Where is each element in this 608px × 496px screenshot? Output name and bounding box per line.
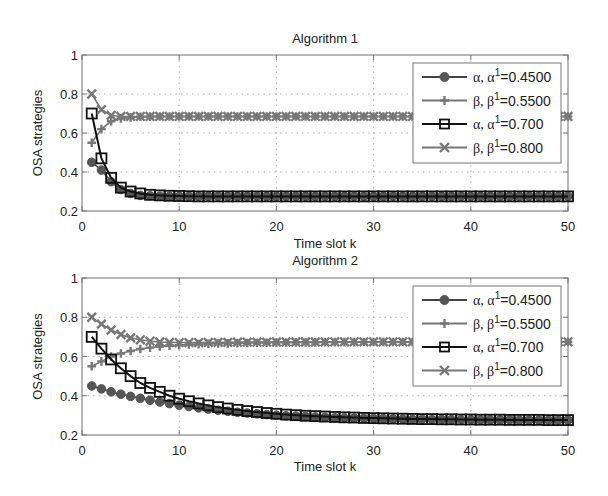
legend-label: α, α1=0.4500 bbox=[473, 290, 551, 308]
figure: Algorithm 1 Time slot k OSA strategies 0… bbox=[0, 0, 608, 496]
data-point-circle bbox=[136, 394, 145, 403]
legend-label: β, β1=0.5500 bbox=[473, 91, 551, 109]
x-tick-label: 30 bbox=[366, 219, 380, 234]
data-point-circle bbox=[97, 166, 106, 175]
y-tick-label: 0.4 bbox=[60, 389, 78, 404]
subplot-algorithm-1: Algorithm 1 Time slot k OSA strategies 0… bbox=[30, 31, 575, 251]
y-axis-label: OSA strategies bbox=[30, 313, 45, 400]
data-point-plus bbox=[87, 362, 96, 371]
x-axis-label: Time slot k bbox=[294, 236, 357, 251]
legend: α, α1=0.4500β, β1=0.5500α, α1=0.700β, β1… bbox=[413, 286, 561, 386]
data-point-circle bbox=[146, 396, 155, 405]
legend: α, α1=0.4500β, β1=0.5500α, α1=0.700β, β1… bbox=[413, 63, 561, 163]
data-point-x bbox=[107, 326, 116, 335]
y-tick-label: 0.2 bbox=[60, 428, 78, 443]
legend-label: β, β1=0.800 bbox=[473, 138, 543, 156]
legend-label: β, β1=0.5500 bbox=[473, 314, 551, 332]
data-point-plus bbox=[136, 345, 145, 354]
data-point-x bbox=[97, 320, 106, 329]
y-tick-label: 0.8 bbox=[60, 310, 78, 325]
y-tick-label: 1 bbox=[71, 271, 78, 286]
x-tick-label: 10 bbox=[172, 443, 186, 458]
legend-label: α, α1=0.4500 bbox=[473, 67, 551, 85]
legend-marker-circle-icon bbox=[440, 296, 449, 305]
data-point-circle bbox=[107, 388, 116, 397]
figure-canvas: Algorithm 1 Time slot k OSA strategies 0… bbox=[0, 0, 608, 496]
legend-label: α, α1=0.700 bbox=[473, 337, 544, 355]
data-point-plus bbox=[117, 349, 126, 358]
x-tick-label: 40 bbox=[464, 219, 478, 234]
y-tick-label: 0.8 bbox=[60, 87, 78, 102]
data-point-plus bbox=[126, 347, 135, 356]
subplot-algorithm-2: Algorithm 2 Time slot k OSA strategies 0… bbox=[30, 253, 575, 474]
data-point-x bbox=[117, 330, 126, 339]
data-point-circle bbox=[87, 158, 96, 167]
y-tick-label: 0.6 bbox=[60, 350, 78, 365]
x-tick-label: 20 bbox=[269, 443, 283, 458]
data-point-circle bbox=[117, 390, 126, 399]
legend-label: β, β1=0.800 bbox=[473, 361, 543, 379]
x-tick-label: 50 bbox=[561, 443, 575, 458]
legend-marker-circle-icon bbox=[440, 73, 449, 82]
y-tick-label: 0.4 bbox=[60, 165, 78, 180]
data-point-plus bbox=[97, 357, 106, 366]
x-axis-label: Time slot k bbox=[294, 459, 357, 474]
x-tick-label: 40 bbox=[464, 443, 478, 458]
x-tick-label: 20 bbox=[269, 219, 283, 234]
data-point-circle bbox=[87, 382, 96, 391]
x-tick-label: 30 bbox=[366, 443, 380, 458]
x-tick-label: 10 bbox=[172, 219, 186, 234]
y-tick-label: 0.6 bbox=[60, 126, 78, 141]
data-point-circle bbox=[175, 401, 184, 410]
data-point-circle bbox=[97, 385, 106, 394]
y-tick-label: 0.2 bbox=[60, 204, 78, 219]
legend-label: α, α1=0.700 bbox=[473, 114, 544, 132]
data-point-circle bbox=[126, 392, 135, 401]
x-tick-label: 0 bbox=[78, 443, 85, 458]
y-tick-label: 1 bbox=[71, 48, 78, 63]
subplot-title: Algorithm 2 bbox=[292, 253, 358, 268]
data-point-circle bbox=[155, 398, 164, 407]
y-axis-label: OSA strategies bbox=[30, 89, 45, 176]
data-point-x bbox=[97, 105, 106, 114]
subplot-title: Algorithm 1 bbox=[292, 31, 358, 46]
x-tick-label: 0 bbox=[78, 219, 85, 234]
x-tick-label: 50 bbox=[561, 219, 575, 234]
